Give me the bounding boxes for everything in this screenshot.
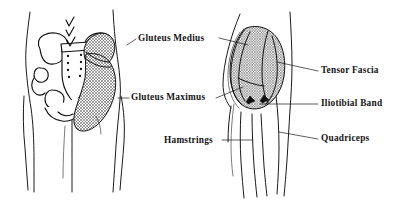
label-iliotibial-band: Iliotibial Band (321, 98, 383, 108)
label-tensor-fascia: Tensor Fascia (321, 65, 379, 75)
anatomy-illustration: Gluteus Medius Gluteus Maximus Hamstring… (0, 0, 409, 200)
leader-quadriceps (279, 132, 318, 139)
label-gluteus-maximus: Gluteus Maximus (131, 92, 205, 102)
posterior-pelvis-view (23, 10, 124, 192)
lumbar-spine-chevrons (66, 17, 75, 46)
label-hamstrings: Hamstrings (164, 135, 213, 145)
label-gluteus-medius: Gluteus Medius (138, 33, 204, 43)
label-quadriceps: Quadriceps (321, 133, 370, 143)
leader-lines (118, 38, 318, 140)
leader-gluteus-medius-left (127, 39, 136, 45)
lateral-hip-view (223, 12, 292, 198)
anatomy-figure: Gluteus Medius Gluteus Maximus Hamstring… (0, 0, 409, 200)
